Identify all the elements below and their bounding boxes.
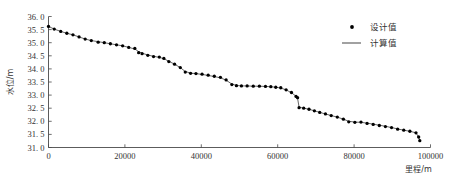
data-point [146,54,149,57]
data-point [173,63,176,66]
data-point [252,85,255,88]
data-point [53,27,56,30]
data-point [396,128,399,131]
water-level-profile-chart: 31. 031. 532. 032. 533. 033. 534. 034. 5… [0,0,453,182]
x-axis-title: 里程/m [405,165,432,174]
data-point [279,86,282,89]
y-tick-label: 34. 5 [28,51,45,61]
data-point [167,60,170,63]
data-point [65,32,68,35]
data-point [258,85,261,88]
y-tick-label: 32. 5 [28,103,45,113]
x-tick-label: 20000 [114,151,135,161]
data-point [77,35,80,38]
data-point [121,44,124,47]
y-tick-label: 31. 5 [28,129,45,139]
data-point [359,120,362,123]
x-tick-label: 80000 [343,151,364,161]
data-point [378,124,381,127]
data-point [194,72,197,75]
data-point [230,83,233,86]
data-point [296,96,299,99]
y-tick-label: 33. 0 [28,90,45,100]
y-axis-title: 水位/m [5,69,15,96]
data-point [59,30,62,33]
y-tick-label: 35. 0 [28,38,45,48]
data-point [109,42,112,45]
legend-label-design: 设计值 [370,22,397,32]
x-tick-label: 60000 [267,151,288,161]
y-tick-label: 36. 0 [28,12,45,22]
data-point [390,126,393,129]
x-tick-label: 100000 [418,151,444,161]
data-point [162,57,165,60]
x-tick-label: 40000 [191,151,212,161]
data-point [269,85,272,88]
data-point [302,107,305,110]
legend-label-calculated: 计算值 [370,38,397,48]
data-point [264,85,267,88]
data-point [189,72,192,75]
data-point [324,112,327,115]
data-point [158,55,161,58]
data-point [137,51,140,54]
data-point [207,74,210,77]
y-tick-label: 32. 0 [28,116,45,126]
data-point [417,135,420,138]
data-point [97,41,100,44]
data-point [184,70,187,73]
data-point [384,125,387,128]
data-point [219,76,222,79]
x-tick-label: 0 [46,151,50,161]
data-point [347,120,350,123]
data-point [313,109,316,112]
data-point [307,108,310,111]
data-point [318,111,321,114]
data-point [297,106,300,109]
legend-dot-marker [350,25,354,29]
data-point [71,33,74,36]
data-point [224,78,227,81]
data-point [365,122,368,125]
data-point [284,88,287,91]
axis-spines [49,17,431,148]
data-point [240,84,243,87]
data-point [140,52,143,55]
data-point [213,75,216,78]
chart-figure: 31. 031. 532. 032. 533. 033. 534. 034. 5… [0,0,453,182]
data-point [342,118,345,121]
y-tick-label: 34. 0 [28,64,45,74]
data-point [133,47,136,50]
data-point [152,55,155,58]
data-point [353,121,356,124]
data-point [372,123,375,126]
data-point [408,130,411,133]
data-point [245,84,248,87]
data-point [336,115,339,118]
data-point [330,114,333,117]
data-point [290,91,293,94]
data-point [179,66,182,69]
data-point [90,39,93,42]
data-point [414,131,417,134]
y-tick-label: 35. 5 [28,25,45,35]
y-tick-label: 31. 0 [28,143,45,153]
data-point [47,25,50,28]
data-point [418,139,421,142]
data-point [200,72,203,75]
data-point [103,41,106,44]
data-point [402,129,405,132]
data-point [274,86,277,89]
data-point [127,46,130,49]
series-points-design [47,25,422,143]
data-point [84,37,87,40]
y-tick-label: 33. 5 [28,77,45,87]
data-point [235,84,238,87]
data-point [115,43,118,46]
